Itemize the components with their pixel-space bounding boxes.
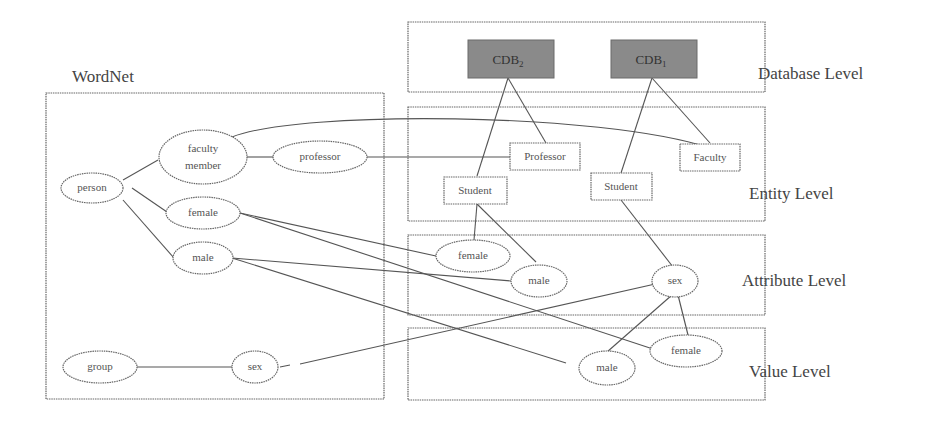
entity-node-professor: Professor	[510, 143, 580, 170]
svg-text:male: male	[192, 251, 213, 263]
svg-text:Professor: Professor	[524, 150, 566, 162]
svg-text:male: male	[596, 361, 617, 373]
entity-node-student-right: Student	[591, 173, 652, 200]
edge-cdb2-student	[477, 78, 508, 176]
svg-text:professor: professor	[300, 150, 341, 162]
edge-female-attr-female	[240, 213, 436, 256]
edge-person-female	[132, 188, 167, 212]
entity-level-label: Entity Level	[749, 184, 834, 203]
diagram-canvas: WordNet Database Level Entity Level Attr…	[0, 0, 933, 422]
attribute-node-female: female	[436, 240, 510, 272]
svg-text:Student: Student	[458, 184, 492, 196]
entity-node-student-left: Student	[444, 177, 507, 204]
svg-text:member: member	[185, 159, 221, 171]
edge-person-faculty	[123, 160, 158, 180]
wordnet-node-female: female	[166, 197, 240, 229]
wordnet-node-professor: professor	[273, 141, 367, 173]
db-node-cdb-right: CDB1	[611, 40, 697, 78]
svg-text:male: male	[528, 274, 549, 286]
db-node-cdb-left: CDB2	[468, 40, 554, 78]
value-node-female: female	[650, 335, 722, 367]
wordnet-node-male: male	[173, 242, 233, 274]
svg-text:group: group	[87, 360, 113, 372]
wordnet-node-sex: sex	[232, 351, 278, 383]
attribute-level-label: Attribute Level	[742, 271, 847, 290]
svg-text:sex: sex	[248, 360, 263, 372]
svg-text:Faculty: Faculty	[694, 151, 727, 163]
attribute-node-male: male	[511, 265, 567, 297]
edge-student-sex	[621, 200, 673, 267]
edge-person-male	[123, 200, 174, 258]
svg-text:CDB2: CDB2	[492, 52, 523, 69]
value-node-male: male	[579, 351, 635, 385]
value-level-label: Value Level	[749, 362, 831, 381]
database-level-panel	[408, 22, 765, 92]
attribute-node-sex: sex	[652, 265, 698, 297]
wordnet-node-faculty-member: faculty member	[159, 130, 247, 184]
svg-text:female: female	[458, 249, 488, 261]
svg-text:female: female	[188, 206, 218, 218]
svg-text:person: person	[77, 181, 107, 193]
wordnet-node-person: person	[61, 173, 123, 203]
entity-node-faculty: Faculty	[680, 144, 740, 171]
edge-cdb2-professor	[508, 78, 546, 143]
svg-text:CDB1: CDB1	[635, 52, 666, 69]
edge-cdb1-faculty	[652, 78, 710, 143]
svg-text:Student: Student	[604, 180, 638, 192]
svg-text:faculty: faculty	[188, 142, 219, 154]
wordnet-node-group: group	[63, 351, 137, 383]
svg-text:sex: sex	[668, 274, 683, 286]
wordnet-title: WordNet	[72, 67, 134, 86]
edge-female-value-female	[240, 213, 656, 350]
svg-text:female: female	[671, 344, 701, 356]
database-level-label: Database Level	[758, 64, 864, 83]
